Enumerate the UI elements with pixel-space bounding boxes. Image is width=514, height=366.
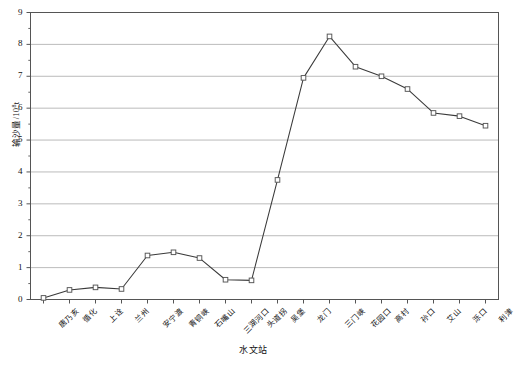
data-point-marker[interactable]	[327, 34, 332, 39]
y-tick-label: 4	[7, 166, 23, 176]
y-tick-label: 1	[7, 262, 23, 272]
y-axis-title: 输沙量/108t	[9, 79, 22, 169]
data-point-marker[interactable]	[457, 114, 462, 119]
y-tick-label: 6	[7, 102, 23, 112]
data-point-marker[interactable]	[405, 87, 410, 92]
data-point-marker[interactable]	[197, 256, 202, 261]
data-point-marker[interactable]	[119, 287, 124, 292]
data-point-marker[interactable]	[171, 250, 176, 255]
data-point-marker[interactable]	[67, 288, 72, 293]
data-point-marker[interactable]	[379, 74, 384, 79]
y-axis-ticks	[27, 13, 31, 300]
data-point-marker[interactable]	[41, 296, 46, 301]
data-point-marker[interactable]	[145, 253, 150, 258]
data-point-marker[interactable]	[301, 76, 306, 81]
data-point-marker[interactable]	[275, 178, 280, 183]
x-axis-ticks	[44, 300, 486, 304]
x-axis-title: 水文站	[0, 343, 507, 356]
plot-background	[31, 13, 499, 300]
y-tick-label: 5	[7, 134, 23, 144]
y-tick-label: 2	[7, 230, 23, 240]
data-point-marker[interactable]	[223, 277, 228, 282]
y-tick-label: 9	[7, 7, 23, 17]
data-point-marker[interactable]	[483, 123, 488, 128]
data-point-marker[interactable]	[93, 285, 98, 290]
data-point-marker[interactable]	[431, 111, 436, 116]
data-point-marker[interactable]	[249, 278, 254, 283]
y-tick-label: 7	[7, 70, 23, 80]
y-tick-label: 3	[7, 198, 23, 208]
data-point-marker[interactable]	[353, 64, 358, 69]
y-tick-label: 0	[7, 294, 23, 304]
y-tick-label: 8	[7, 38, 23, 48]
